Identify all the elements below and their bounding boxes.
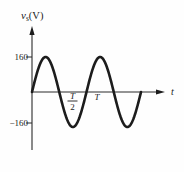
x-tick-full-period: T (94, 92, 100, 102)
waveform-chart: vs(V) 160 −160 T 2 T t (0, 0, 184, 172)
y-axis-label: vs(V) (21, 9, 44, 23)
x-tick-half-period-denominator: 2 (70, 102, 75, 112)
y-axis-arrow-icon (29, 26, 34, 35)
x-axis-arrow-icon (156, 90, 165, 95)
y-axis-label-unit: (V) (29, 10, 44, 22)
y-tick-label-negative: −160 (9, 118, 28, 128)
x-axis-label: t (171, 86, 174, 97)
sine-waveform-figure: vs(V) 160 −160 T 2 T t (0, 0, 184, 172)
y-tick-label-positive: 160 (15, 52, 29, 62)
